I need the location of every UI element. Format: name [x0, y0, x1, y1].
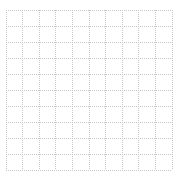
chart-screenshot	[0, 0, 183, 179]
plot-canvas	[0, 0, 183, 179]
